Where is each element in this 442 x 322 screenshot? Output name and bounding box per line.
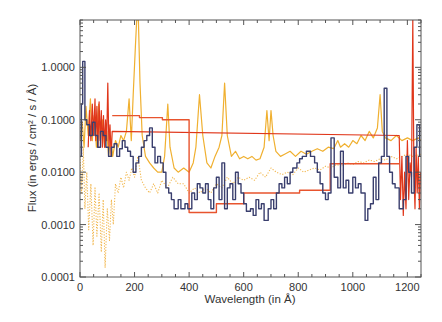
x-tick-label: 0 xyxy=(77,281,83,293)
flux-chart: 020040060080010001200 0.00010.00100.0100… xyxy=(0,0,442,322)
y-tick-label: 0.0001 xyxy=(41,271,75,283)
x-axis-title: Wavelength (in Å) xyxy=(205,293,296,305)
x-tick-label: 800 xyxy=(289,281,307,293)
x-tick-label: 1000 xyxy=(341,281,365,293)
x-tick-label: 600 xyxy=(235,281,253,293)
y-tick-label: 0.1000 xyxy=(41,114,75,126)
y-tick-label: 0.0010 xyxy=(41,219,75,231)
x-tick-label: 400 xyxy=(180,281,198,293)
x-tick-label: 200 xyxy=(125,281,143,293)
x-tick-label: 1200 xyxy=(395,281,419,293)
y-tick-label: 1.0000 xyxy=(41,61,75,73)
y-axis-title: Flux (in ergs / cm² / s / Å) xyxy=(26,84,38,213)
y-tick-label: 0.0100 xyxy=(41,166,75,178)
